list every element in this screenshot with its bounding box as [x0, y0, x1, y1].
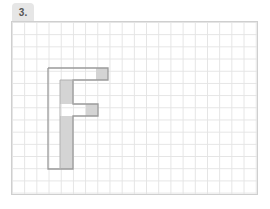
letter-f-figure	[0, 0, 270, 209]
shade-mid-bar-end	[86, 104, 98, 116]
shade-stem-lower	[60, 116, 73, 169]
shade-top-bar-end	[96, 68, 108, 80]
shade-stem-upper	[60, 80, 73, 104]
letter-f-outline	[48, 68, 108, 169]
